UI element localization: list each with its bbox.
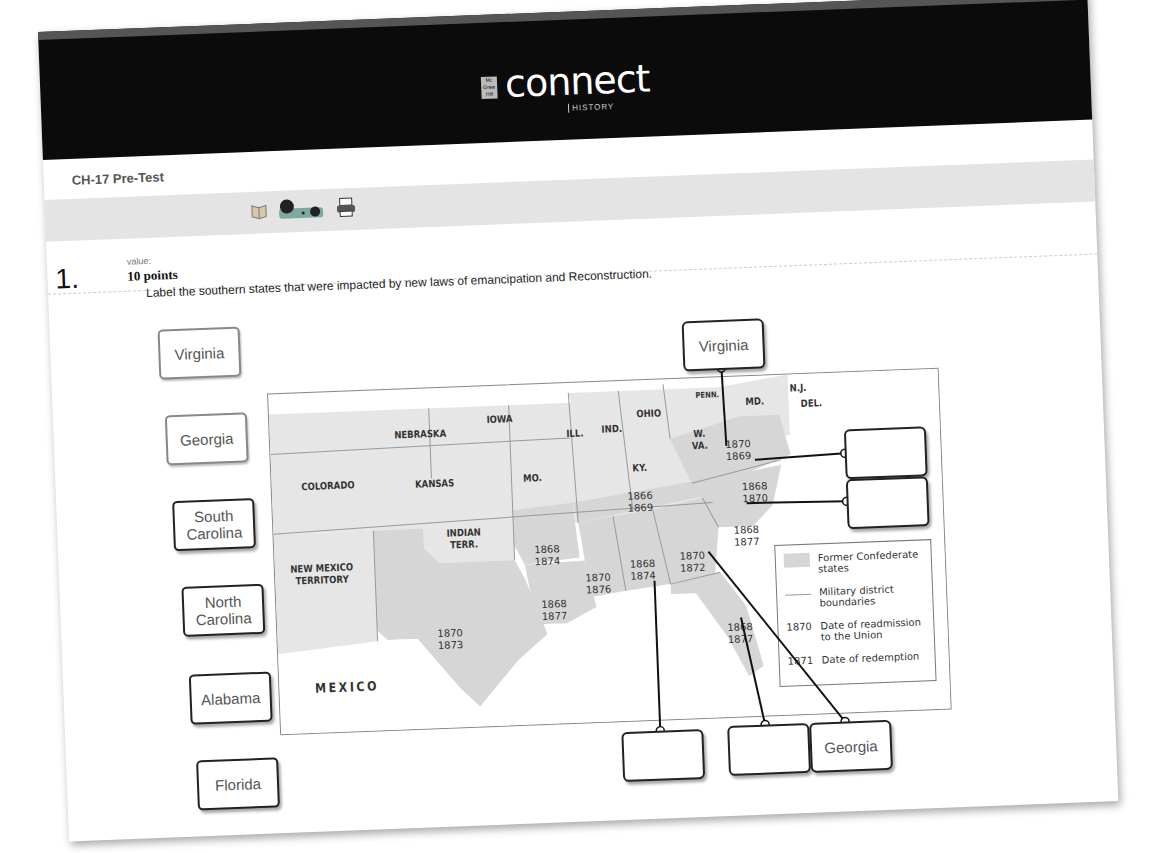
target-georgia[interactable]: Georgia [809,720,893,773]
assignment-page: Mc Graw Hill connect HISTORY CH-17 Pre-T… [38,0,1118,841]
dates-florida: 18681877 [727,621,753,646]
question-number: 1. [55,263,80,296]
dates-arkansas: 18681874 [534,543,560,568]
label-del: DEL. [801,397,823,410]
brand-name: connect [504,59,650,105]
target-florida[interactable] [727,723,811,776]
toolbar [44,160,1095,242]
legend-military: Military district boundaries [785,582,925,609]
dates-virginia: 18701869 [725,438,751,463]
media-icon[interactable] [277,197,326,221]
label-ill: ILL. [566,427,584,440]
target-north-carolina[interactable] [844,426,928,479]
question-points: 10 points [127,267,178,285]
label-colorado: COLORADO [301,479,355,493]
chip-georgia[interactable]: Georgia [165,412,249,465]
dates-louisiana: 18681877 [541,598,567,623]
dates-georgia: 18701872 [679,550,705,575]
brand-subtitle: HISTORY [568,102,615,113]
app-header: Mc Graw Hill connect HISTORY [38,0,1092,160]
label-md: MD. [745,395,764,408]
publisher-mark: Mc Graw Hill [481,76,498,99]
dates-tennessee: 18661869 [627,490,653,515]
label-mo: MO. [523,472,542,485]
label-ind: IND. [601,423,622,436]
chip-florida[interactable]: Florida [196,757,280,810]
label-penn: PENN. [695,389,719,402]
label-ohio: OHIO [636,407,661,420]
connect-logo: Mc Graw Hill connect HISTORY [480,59,650,105]
dates-alabama: 18681874 [630,558,656,583]
target-alabama[interactable] [621,729,705,782]
question-value-label: value: [127,256,151,267]
chip-south-carolina[interactable]: South Carolina [172,498,256,551]
dates-north-carolina: 18681870 [742,480,768,505]
label-indian-territory: INDIANTERR. [446,526,481,551]
dates-texas: 18701873 [437,627,463,652]
dates-mississippi: 18701876 [585,571,611,596]
legend-redemption: 1871 Date of redemption [787,650,926,666]
legend-confederate: Former Confederate states [784,548,924,575]
label-kansas: KANSAS [415,477,455,490]
label-mexico: MEXICO [315,680,379,694]
print-icon[interactable] [335,196,358,219]
ebook-icon[interactable] [250,199,269,222]
label-ky: KY. [632,462,647,475]
label-new-mexico: NEW MEXICOTERRITORY [290,561,354,587]
label-nj: N.J. [789,382,806,395]
chip-alabama[interactable]: Alabama [189,672,273,725]
label-nebraska: NEBRASKA [394,428,446,442]
legend-readmission: 1870 Date of readmission to the Union [786,616,926,643]
map-legend: Former Confederate states Military distr… [774,539,936,687]
assignment-title: CH-17 Pre-Test [71,169,164,188]
label-iowa: IOWA [486,413,512,426]
target-virginia[interactable]: Virginia [682,318,766,371]
reconstruction-map: NEBRASKA IOWA ILL. IND. OHIO PENN. MD. N… [267,368,952,736]
chip-virginia[interactable]: Virginia [158,326,242,379]
chip-north-carolina[interactable]: North Carolina [181,584,265,637]
target-south-carolina[interactable] [846,476,930,529]
dates-south-carolina: 18681877 [733,524,759,549]
label-wva: W.VA. [691,428,708,453]
question-prompt: Label the southern states that were impa… [146,267,652,300]
